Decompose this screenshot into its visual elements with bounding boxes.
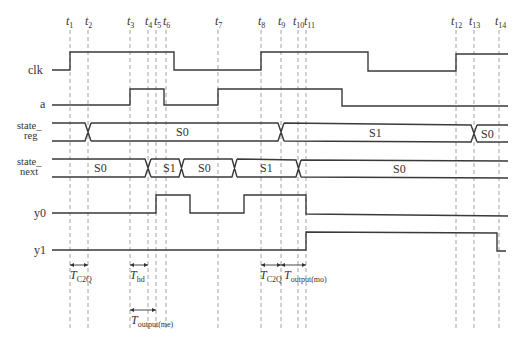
bus-state-next: S0 S1 S0 S1 S0 [52,159,508,178]
tlabel-t9: t9 [278,14,285,30]
tlabel-t14: t14 [495,14,506,30]
bus-value-state-next-s0-2: S0 [198,161,211,175]
tlabel-t12: t12 [451,14,462,30]
tlabel-t6: t6 [163,14,170,30]
label-y0: y0 [34,206,46,220]
tlabel-t11: t11 [304,14,315,30]
tlabel-t13: t13 [469,14,480,30]
time-labels: t1 t2 t3 t4 t5 t6 t7 t8 t9 t10 t11 t12 t… [66,14,506,30]
tlabel-t4: t4 [145,14,152,30]
bus-value-state-reg-s1: S1 [369,126,382,140]
annotation-t-c2q-1: TC2Q [70,268,92,284]
bus-state-reg: S0 S1 S0 [52,123,508,142]
tlabel-t3: t3 [127,14,134,30]
bus-value-state-next-s1-1: S1 [163,161,176,175]
tlabel-t10: t10 [293,14,304,30]
annotation-t-output-me: Toutput(me) [131,313,174,329]
tlabel-t2: t2 [85,14,92,30]
annotation-t-output-mo: Toutput(mo) [284,268,327,284]
annotation-t-c2q-2: TC2Q [260,268,282,284]
tlabel-t8: t8 [258,14,265,30]
waveform-y0 [52,195,508,216]
timing-diagram: t1 t2 t3 t4 t5 t6 t7 t8 t9 t10 t11 t12 t… [0,0,524,356]
label-y1: y1 [34,243,46,257]
waveform-y1 [52,232,506,251]
tlabel-t7: t7 [215,14,222,30]
bus-value-state-next-s1-2: S1 [260,161,273,175]
timing-annotations: TC2Q Thd Toutput(me) TC2Q Toutput(mo) [70,263,327,329]
label-clk: clk [28,63,43,77]
signal-labels: clk a state_ reg state_ next y0 y1 [17,63,46,257]
bus-value-state-next-s0-3: S0 [393,162,406,176]
annotation-t-hd: Thd [130,268,145,284]
time-guides [70,30,499,330]
label-a: a [40,97,46,111]
waveform-clk [52,52,508,71]
bus-value-state-next-s0-1: S0 [94,161,107,175]
tlabel-t1: t1 [66,14,73,30]
label-state-next-2: next [20,166,38,177]
waveform-a [52,89,508,106]
label-state-reg-2: reg [24,130,38,141]
bus-value-state-reg-s0: S0 [176,125,189,139]
tlabel-t5: t5 [154,14,161,30]
bus-value-state-reg-s0-2: S0 [481,127,494,141]
